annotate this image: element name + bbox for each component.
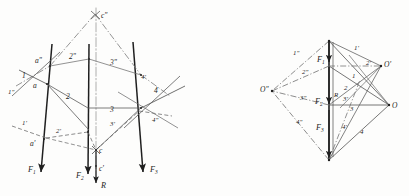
- label-r-ray-2pp: 2": [302, 68, 308, 75]
- label-r-force-F2: F2: [314, 97, 323, 107]
- label-ray-3p: 3': [109, 120, 115, 127]
- left-diagram-group: c" a" a a' c c' 1 1" 1' 2" 2 2' 3" 3 3' …: [8, 8, 185, 190]
- label-r-ray-3: 3: [349, 105, 354, 112]
- label-ray-3pp: 3": [109, 58, 118, 67]
- label-ray-3: 3: [109, 105, 114, 114]
- label-ray-4p: 4': [141, 73, 146, 80]
- mid-funicular-solid: [19, 70, 185, 130]
- label-r-force-F3: F3: [315, 123, 324, 133]
- pole-O-rays: [329, 41, 389, 160]
- label-force-F1: F1: [27, 165, 36, 175]
- label-force-F2: F2: [75, 171, 84, 181]
- label-ray-2pp: 2": [69, 52, 77, 61]
- label-r-ray-3p: 3': [342, 95, 348, 102]
- label-point-a: a: [33, 81, 37, 90]
- pole-dots: [271, 40, 390, 161]
- label-r-ray-4: 4: [360, 128, 364, 135]
- label-point-a1: a': [30, 139, 36, 148]
- label-ray-4: 4: [154, 86, 158, 95]
- label-r-resultant-R: R: [333, 91, 339, 98]
- force-line-F2: [88, 44, 89, 174]
- label-ray-2p: 2': [56, 127, 61, 134]
- label-r-ray-1pp: 1": [293, 49, 299, 56]
- right-diagram-group: O O' O" 1" 1' 1 2" 2' 2 3" 3' 3 4" 4' 4 …: [260, 40, 398, 161]
- label-pole-Opp: O": [260, 85, 269, 94]
- label-r-ray-2: 2: [344, 84, 348, 91]
- force-line-F1: [41, 44, 52, 172]
- label-force-F3: F3: [149, 165, 158, 175]
- label-pole-O: O: [392, 101, 398, 110]
- label-point-c: c: [99, 146, 103, 155]
- label-resultant-R: R: [100, 181, 106, 190]
- label-r-ray-1: 1: [352, 72, 355, 79]
- figure-drawing: c" a" a a' c c' 1 1" 1' 2" 2 2' 3" 3 3' …: [0, 0, 409, 196]
- label-ray-1pp: 1": [8, 88, 14, 95]
- lower-funicular-dashed: [12, 111, 172, 150]
- label-point-c1: c': [99, 164, 104, 173]
- label-ray-1p: 1': [22, 119, 27, 126]
- upper-funicular-chain: [16, 11, 170, 96]
- label-r-ray-1p: 1': [354, 44, 359, 51]
- label-r-ray-3pp: 3": [299, 94, 306, 101]
- label-point-a2: a": [35, 56, 43, 65]
- figure-canvas: c" a" a a' c c' 1 1" 1' 2" 2 2' 3" 3 3' …: [0, 0, 409, 196]
- label-r-ray-4p: 4': [342, 123, 347, 130]
- label-ray-4pp: 4": [152, 116, 158, 123]
- label-r-force-F1: F1: [316, 55, 325, 65]
- label-ray-2: 2: [66, 92, 70, 101]
- label-pole-Op: O': [384, 60, 391, 69]
- label-ray-1: 1: [22, 71, 26, 80]
- pole-Op-rays: [329, 41, 381, 160]
- label-point-c2: c": [101, 11, 108, 20]
- label-r-ray-2p: 2': [366, 59, 371, 66]
- label-r-ray-4pp: 4": [296, 118, 302, 125]
